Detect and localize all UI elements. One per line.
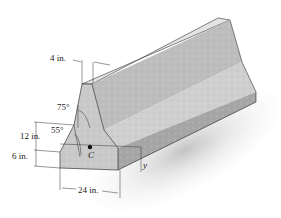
label-y-axis: y bbox=[142, 160, 147, 170]
label-angle-upper: 75° bbox=[57, 102, 70, 112]
centroid-point bbox=[88, 145, 92, 149]
label-angle-lower: 55° bbox=[51, 125, 64, 135]
label-base-height: 6 in. bbox=[12, 151, 28, 161]
barrier-diagram: 4 in. 75° 55° 12 in. 6 in. 24 in. C y bbox=[0, 0, 281, 218]
label-base-width: 24 in. bbox=[78, 185, 99, 195]
label-upper-height: 12 in. bbox=[20, 131, 41, 141]
label-centroid: C bbox=[88, 150, 95, 160]
label-top-width: 4 in. bbox=[50, 53, 66, 63]
